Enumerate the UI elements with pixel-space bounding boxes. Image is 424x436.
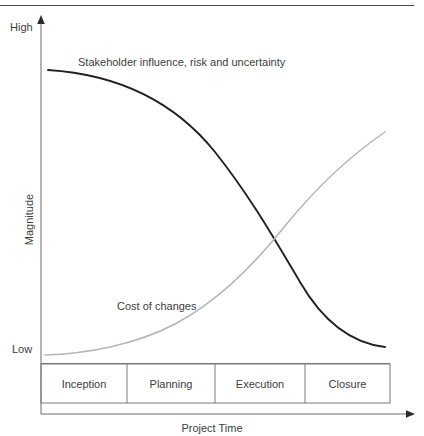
y-axis-high-tick-label: High bbox=[10, 22, 33, 33]
y-axis-arrowhead bbox=[37, 15, 45, 24]
x-axis-arrowhead bbox=[406, 410, 415, 418]
curve-cost-of-changes bbox=[45, 132, 385, 355]
phase-cell-inception: Inception bbox=[41, 364, 127, 403]
x-axis bbox=[41, 410, 415, 418]
y-axis bbox=[37, 15, 45, 414]
phase-cell-planning: Planning bbox=[127, 364, 215, 403]
curve-stakeholder-influence bbox=[48, 70, 385, 347]
phase-cell-execution: Execution bbox=[215, 364, 305, 403]
curve-stakeholder-annotation: Stakeholder influence, risk and uncertai… bbox=[78, 57, 285, 68]
figure-container: High Low Magnitude Project Time Stakehol… bbox=[0, 0, 424, 436]
phase-cell-closure: Closure bbox=[305, 364, 390, 403]
x-axis-title: Project Time bbox=[0, 423, 424, 434]
y-axis-low-tick-label: Low bbox=[12, 344, 32, 355]
curve-cost-annotation: Cost of changes bbox=[117, 301, 197, 312]
y-axis-title: Magnitude bbox=[24, 188, 35, 252]
